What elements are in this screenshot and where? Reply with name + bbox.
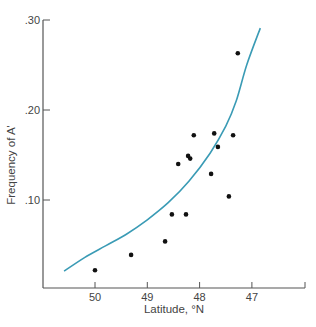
data-point [93,268,98,273]
data-point [227,194,232,199]
data-point [170,212,175,217]
data-point [216,145,221,150]
x-axis-title: Latitude, °N [144,303,204,315]
data-point [212,131,217,136]
data-points [93,51,240,273]
y-axis-ticks: .10.20.30 [25,14,50,206]
data-point [231,133,236,138]
data-point [236,51,241,56]
data-point [192,133,197,138]
y-tick-label: .30 [25,14,40,26]
data-point [188,156,193,161]
x-tick-label: 47 [246,291,258,303]
data-point [129,253,134,258]
scatter-chart: .10.20.30 50494847 Latitude, °N Frequenc… [0,0,316,327]
fitted-curve [64,28,260,271]
data-point [209,172,214,177]
y-tick-label: .20 [25,104,40,116]
x-axis-ticks: 50494847 [89,282,258,303]
data-point [176,162,181,167]
y-axis-title: Frequency of A' [5,125,17,205]
x-tick-label: 48 [193,291,205,303]
plot-area: .10.20.30 50494847 [25,14,305,303]
y-tick-label: .10 [25,194,40,206]
x-tick-label: 50 [89,291,101,303]
x-tick-label: 49 [141,291,153,303]
data-point [184,212,189,217]
data-point [163,239,168,244]
